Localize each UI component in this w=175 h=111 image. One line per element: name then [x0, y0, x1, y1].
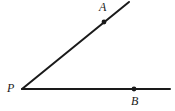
point-a-label: A — [99, 1, 106, 13]
point-b-label: B — [131, 95, 138, 107]
point-a-dot — [102, 20, 107, 25]
vertex-p-label: P — [7, 82, 14, 94]
angle-diagram-figure: A B P — [0, 0, 175, 111]
geometry-canvas — [0, 0, 175, 111]
ray-pa-line — [22, 2, 129, 89]
point-b-dot — [132, 87, 137, 92]
